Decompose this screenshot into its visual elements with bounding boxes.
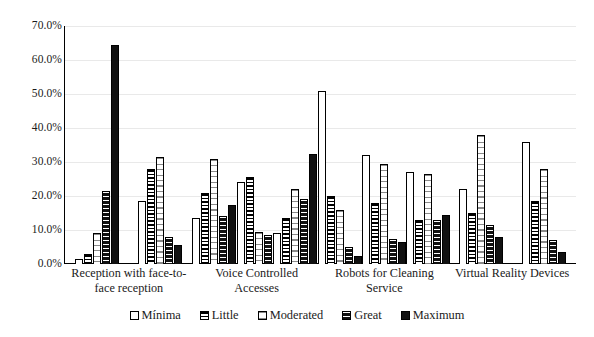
bar xyxy=(210,159,218,264)
y-axis-tick-label: 60.0% xyxy=(4,54,62,66)
bar xyxy=(522,142,530,264)
bar xyxy=(549,240,557,264)
bar xyxy=(415,220,423,264)
bar xyxy=(192,218,200,264)
legend-label: Moderated xyxy=(270,309,324,322)
bar-subgroup xyxy=(273,26,317,264)
bar xyxy=(354,256,362,265)
bar xyxy=(165,237,173,264)
bar xyxy=(477,135,485,264)
bar xyxy=(264,235,272,264)
legend-label: Maximum xyxy=(413,309,465,322)
bar xyxy=(380,164,388,264)
legend-item[interactable]: Mínima xyxy=(130,309,181,322)
legend-label: Little xyxy=(212,309,239,322)
bar xyxy=(309,154,317,265)
x-axis-category-label: Voice Controlled Accesses xyxy=(193,266,321,308)
y-axis: 70.0%60.0%50.0%40.0%30.0%20.0%10.0%0.0% xyxy=(0,26,62,264)
bar xyxy=(300,199,308,264)
legend-swatch-minima xyxy=(130,311,139,320)
bar xyxy=(540,169,548,264)
bar xyxy=(558,252,566,264)
bar-subgroup xyxy=(522,26,566,264)
bar xyxy=(156,157,164,264)
bar xyxy=(228,205,236,265)
legend-item[interactable]: Maximum xyxy=(401,309,465,322)
bar-group xyxy=(191,26,317,264)
bar xyxy=(442,215,450,264)
bar xyxy=(255,232,263,264)
y-axis-tick-label: 0.0% xyxy=(4,258,62,270)
bar xyxy=(389,239,397,265)
bar xyxy=(102,191,110,264)
bar xyxy=(138,201,146,264)
bar xyxy=(246,177,254,264)
bar-subgroup xyxy=(406,26,450,264)
y-axis-tick-label: 30.0% xyxy=(4,156,62,168)
bar xyxy=(433,220,441,264)
bar-subgroup xyxy=(192,26,236,264)
legend-item[interactable]: Great xyxy=(342,309,382,322)
bar-groups xyxy=(65,26,576,264)
bar xyxy=(459,189,467,264)
chart-legend: MínimaLittleModeratedGreatMaximum xyxy=(0,309,594,322)
legend-swatch-maximum xyxy=(401,311,410,320)
y-axis-tick-label: 70.0% xyxy=(4,20,62,32)
bar-subgroup xyxy=(237,26,272,264)
bar-group xyxy=(65,26,191,264)
bar xyxy=(531,201,539,264)
legend-swatch-moderated xyxy=(258,311,267,320)
bar xyxy=(201,193,209,264)
y-axis-tick-label: 20.0% xyxy=(4,190,62,202)
legend-label: Mínima xyxy=(142,309,181,322)
x-axis-category-label: Reception with face-to-face reception xyxy=(65,266,193,308)
bar-subgroup xyxy=(459,26,503,264)
legend-item[interactable]: Moderated xyxy=(258,309,324,322)
bar xyxy=(362,155,370,264)
legend-item[interactable]: Little xyxy=(200,309,239,322)
bar xyxy=(424,174,432,264)
x-axis-category-label: Robots for Cleaning Service xyxy=(321,266,449,308)
bar xyxy=(273,233,281,264)
bar-subgroup xyxy=(138,26,182,264)
bar-subgroup xyxy=(362,26,406,264)
bar-chart: 70.0%60.0%50.0%40.0%30.0%20.0%10.0%0.0% … xyxy=(0,0,594,337)
bar xyxy=(318,91,326,264)
bar xyxy=(84,254,92,264)
bar-subgroup xyxy=(318,26,362,264)
bar xyxy=(219,216,227,264)
y-axis-tick-label: 50.0% xyxy=(4,88,62,100)
legend-swatch-great xyxy=(342,311,351,320)
bar xyxy=(291,189,299,264)
bar xyxy=(282,218,290,264)
bar xyxy=(237,182,245,264)
y-axis-tick-label: 40.0% xyxy=(4,122,62,134)
bar xyxy=(345,247,353,264)
bar xyxy=(147,169,155,264)
bar-subgroup xyxy=(75,26,119,264)
bar xyxy=(336,210,344,264)
bar xyxy=(174,245,182,264)
legend-swatch-little xyxy=(200,311,209,320)
y-axis-tick-label: 10.0% xyxy=(4,224,62,236)
bar xyxy=(327,196,335,264)
bar xyxy=(406,172,414,264)
bar xyxy=(111,45,119,264)
bar xyxy=(486,225,494,264)
bar xyxy=(75,259,83,264)
bar xyxy=(468,213,476,264)
bar xyxy=(371,203,379,264)
bar-group xyxy=(318,26,450,264)
x-axis: Reception with face-to-face receptionVoi… xyxy=(65,266,576,308)
bar-group xyxy=(450,26,576,264)
bar xyxy=(398,242,406,264)
legend-label: Great xyxy=(354,309,382,322)
x-axis-category-label: Virtual Reality Devices xyxy=(448,266,576,308)
bar xyxy=(93,233,101,264)
bar xyxy=(495,237,503,264)
